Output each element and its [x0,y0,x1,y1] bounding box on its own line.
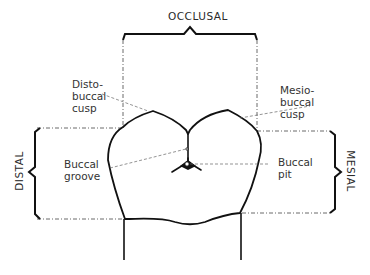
buccal-pit-circle [185,162,189,166]
tooth-diagram [0,0,370,275]
distal-bracket [29,128,40,219]
occlusal-bracket [123,27,257,40]
label-disto-buccal-cusp: Disto- buccal cusp [72,78,106,114]
label-occlusal: OCCLUSAL [168,10,228,22]
label-line: cusp [72,102,106,114]
label-line: buccal [72,90,106,102]
label-distal: DISTAL [13,149,25,193]
label-line: Buccal [278,156,313,168]
leader-disto-buccal-cusp [102,94,148,111]
buccal-groove-point [186,148,188,150]
label-mesial: MESIAL [345,148,357,194]
mesial-bracket [330,131,341,213]
label-line: Disto- [72,78,106,90]
label-buccal-pit: Buccal pit [278,156,313,180]
label-mesio-buccal-cusp: Mesio- buccal cusp [280,84,314,120]
leader-buccal-groove [110,149,186,168]
label-line: groove [64,170,100,182]
label-line: Buccal [64,158,100,170]
label-line: pit [278,168,313,180]
label-line: Mesio- [280,84,314,96]
label-buccal-groove: Buccal groove [64,158,100,182]
label-line: cusp [280,108,314,120]
label-line: buccal [280,96,314,108]
